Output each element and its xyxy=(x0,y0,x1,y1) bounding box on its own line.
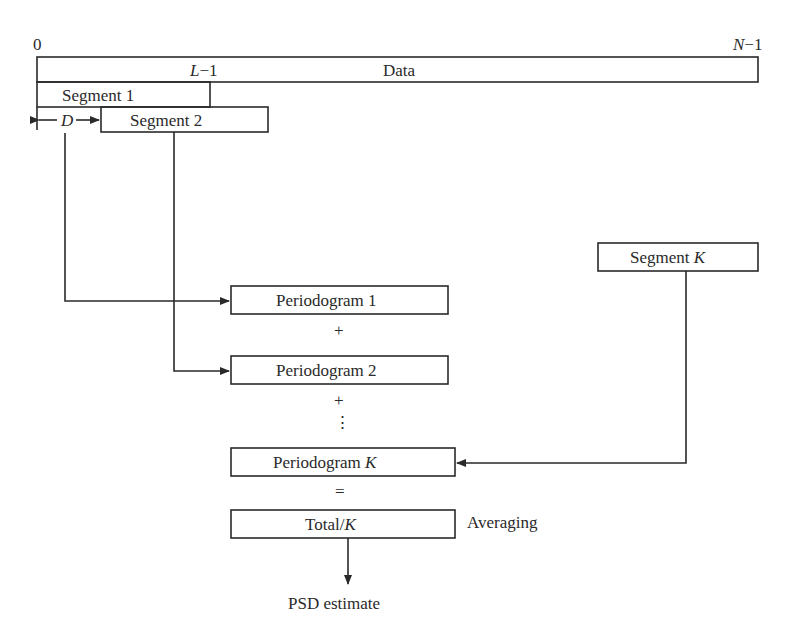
axis-start-label: 0 xyxy=(33,36,42,53)
axis-end-var: N xyxy=(733,35,744,54)
total-label: Total/K xyxy=(305,516,356,533)
l-minus-1-label: L−1 xyxy=(190,62,218,79)
total-prefix: Total/ xyxy=(305,515,344,534)
ellipsis-vertical: ⋮ xyxy=(334,414,351,431)
plus-operator-1: + xyxy=(334,322,344,339)
psd-estimate-label: PSD estimate xyxy=(288,595,380,612)
segment-k-var: K xyxy=(694,248,705,267)
plus-operator-2: + xyxy=(334,392,344,409)
equals-operator: = xyxy=(335,483,345,500)
periodogram-2-label: Periodogram 2 xyxy=(276,362,377,379)
axis-end-suffix: −1 xyxy=(744,35,762,54)
offset-d-label: D xyxy=(61,112,73,129)
data-label: Data xyxy=(383,62,415,79)
periodogram-k-prefix: Periodogram xyxy=(273,453,365,472)
periodogram-1-label: Periodogram 1 xyxy=(276,292,377,309)
periodogram-k-var: K xyxy=(365,453,376,472)
total-var: K xyxy=(344,515,355,534)
l-suffix: −1 xyxy=(199,61,217,80)
segment-k-label: Segment K xyxy=(630,249,705,266)
axis-end-label: N−1 xyxy=(733,36,762,53)
averaging-label: Averaging xyxy=(467,514,538,531)
segment-k-prefix: Segment xyxy=(630,248,694,267)
periodogram-k-label: Periodogram K xyxy=(273,454,376,471)
segment-2-label: Segment 2 xyxy=(130,112,202,129)
segment-1-label: Segment 1 xyxy=(62,87,134,104)
